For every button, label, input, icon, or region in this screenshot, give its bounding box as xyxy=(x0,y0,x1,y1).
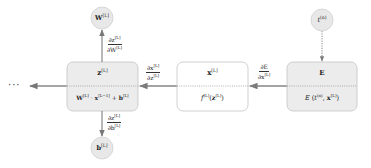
node-linear-bottom: W[L] · x[L−1] + b[L] xyxy=(67,94,138,101)
weights-label: W[L] xyxy=(91,14,113,22)
node-error-bottom: E (t(n), x[L]) xyxy=(287,94,357,102)
label-dz-dW: ∂z[L] ∂W[L] xyxy=(107,36,122,53)
label-dE-dx: ∂E ∂x[L] xyxy=(258,64,270,80)
target-label: t(n) xyxy=(311,16,333,24)
node-linear-top: z[L] xyxy=(67,69,138,76)
node-error-top: E xyxy=(287,69,357,76)
node-activation-top: x[L] xyxy=(177,69,248,76)
diagram-canvas xyxy=(0,0,371,168)
ellipsis: ··· xyxy=(8,79,21,90)
label-dx-dz: ∂x[L] ∂z[L] xyxy=(146,64,160,81)
bias-label: b[L] xyxy=(91,144,113,152)
node-activation-bottom: f[L](z[L]) xyxy=(177,94,248,102)
label-dz-db: ∂z[L] ∂b[L] xyxy=(107,114,121,131)
